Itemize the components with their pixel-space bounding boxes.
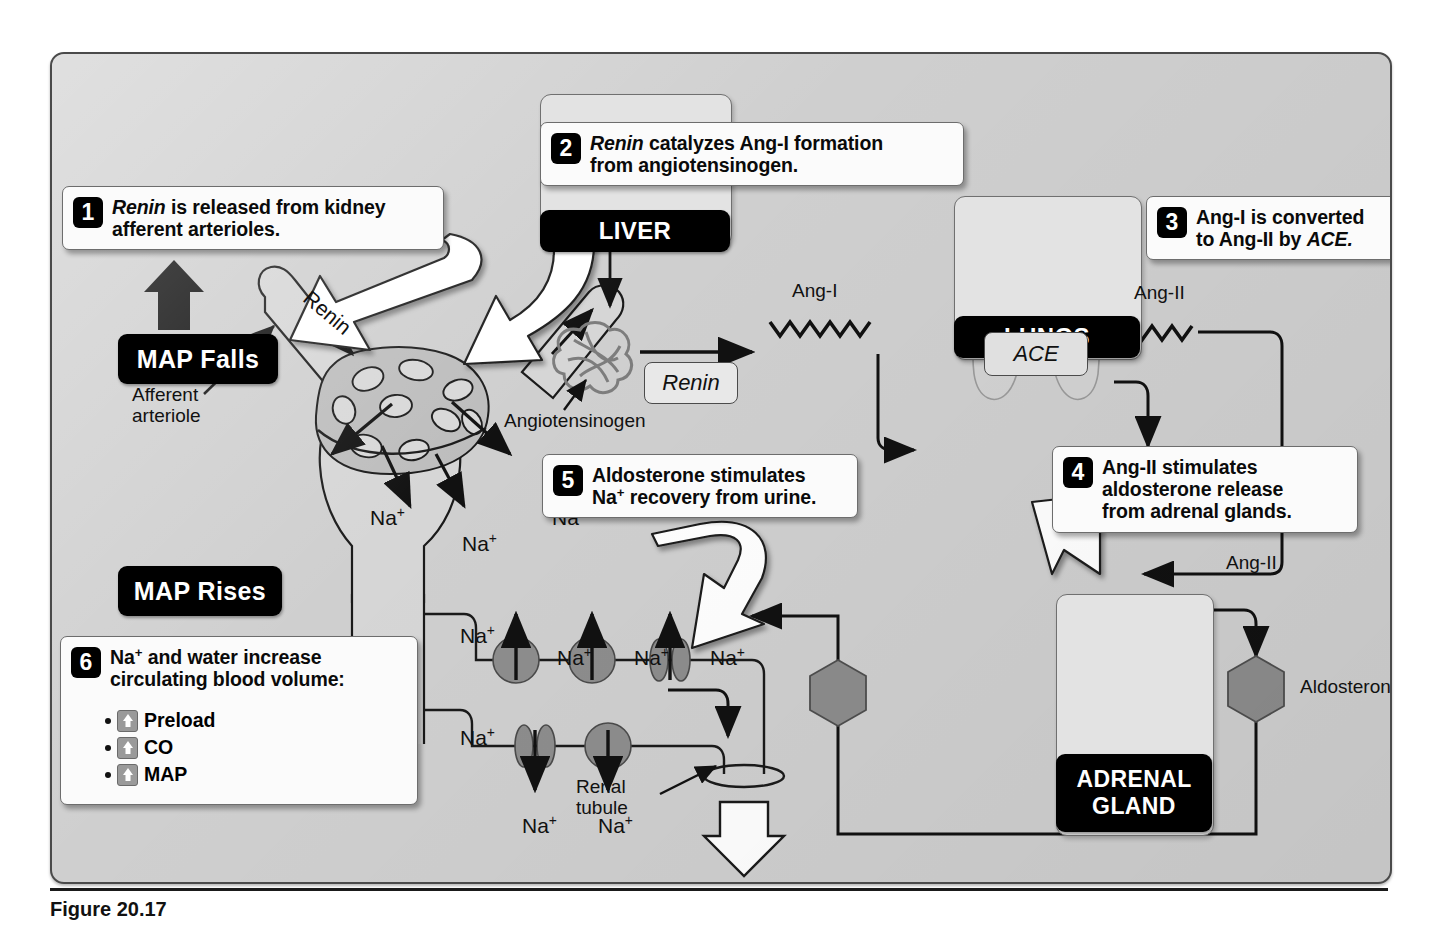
callout-5-number: 5 (553, 465, 583, 496)
na-basal-1: Na+ (522, 814, 557, 838)
callout-1-text: Renin is released from kidney afferent a… (112, 196, 385, 240)
na-tubule-lower: Na+ (460, 726, 495, 750)
sodium-charge-sup: + (584, 644, 592, 660)
afferent-arteriole-line1: Afferent (132, 384, 201, 405)
bullet-co-label: CO (144, 736, 173, 759)
callout-4-number: 4 (1063, 457, 1093, 488)
callout-3-ace: ACE. (1307, 228, 1353, 250)
callout-4-text: Ang-II stimulates aldosterone release fr… (1102, 456, 1292, 523)
callout-3-number: 3 (1157, 207, 1187, 238)
callout-1: 1 Renin is released from kidney afferent… (62, 186, 444, 250)
ang-i-label: Ang-I (792, 280, 837, 302)
adrenal-label-line2: GLAND (1092, 793, 1176, 820)
sodium-charge-sup: + (737, 644, 745, 660)
callout-2-number: 2 (551, 133, 581, 164)
sodium-text: Na+ (370, 506, 405, 529)
aldosterone-hexagon-right (1228, 656, 1284, 722)
pill-adrenal-gland: ADRENAL GLAND (1056, 754, 1212, 832)
callout-5: 5 Aldosterone stimulates Na+ recovery fr… (542, 454, 858, 518)
callout-1-line2: afferent arterioles. (112, 218, 385, 240)
angiotensinogen-label: Angiotensinogen (504, 410, 646, 432)
pill-liver: LIVER (540, 210, 730, 252)
sodium-text: Na+ (462, 532, 497, 555)
ace-chip-label: ACE (1013, 341, 1058, 367)
callout-4-line1: Ang-II stimulates (1102, 456, 1292, 478)
sodium-text: Na+ (557, 646, 592, 669)
callout-2-text: Renin catalyzes Ang-I formation from ang… (590, 132, 883, 176)
ang-ii-label-top: Ang-II (1134, 282, 1185, 304)
angiotensinogen-text: Angiotensinogen (504, 410, 646, 431)
aldosterone-text: Aldosterone (1300, 676, 1392, 697)
callout-5-text: Aldosterone stimulates Na+ recovery from… (592, 464, 816, 508)
sodium-charge-sup: + (397, 504, 405, 520)
na-apical-1: Na+ (557, 646, 592, 670)
bullet-dot-icon (105, 718, 111, 724)
sodium-text: Na+ (460, 624, 495, 647)
liver-label: LIVER (599, 217, 672, 245)
callout-3-line2: to Ang-II by ACE. (1196, 228, 1364, 250)
renal-tubule-label: Renal tubule (576, 776, 628, 819)
na-apical-2: Na+ (634, 646, 669, 670)
na-tubule-upper: Na+ (460, 624, 495, 648)
bullet-dot-icon (105, 745, 111, 751)
callout-1-line1-italic: Renin (112, 196, 166, 218)
sodium-text: Na+ (634, 646, 669, 669)
urine-text: URINE (698, 880, 766, 884)
aldosterone-label: Aldosterone (1300, 676, 1392, 698)
up-arrow-icon (117, 737, 138, 759)
ang-ii-adrenal-text: Ang-II (1226, 552, 1277, 573)
callout-6-line1: Na+ and water increase (110, 646, 345, 668)
afferent-arteriole-label: Afferent arteriole (132, 384, 201, 427)
sodium-text: Na+ (460, 726, 495, 749)
bullet-map-label: MAP (144, 763, 187, 786)
callout-6: 6 Na+ and water increase circulating blo… (60, 636, 418, 805)
na-basal-2: Na+ (598, 814, 633, 838)
callout-1-number: 1 (73, 197, 103, 228)
bullet-preload: Preload (105, 709, 216, 732)
callout-6-na-sup: + (135, 645, 143, 660)
up-arrow-icon (117, 764, 138, 786)
callout-6-line2: circulating blood volume: (110, 668, 345, 690)
sodium-charge-sup: + (549, 812, 557, 828)
up-arrow-icon (117, 710, 138, 732)
callout-4-line2: aldosterone release (1102, 478, 1292, 500)
renin-chip-label: Renin (662, 370, 719, 396)
renin-chip: Renin (644, 362, 738, 404)
diagram-panel: MAP Falls MAP Rises LIVER LUNGS ADRENAL … (50, 52, 1392, 884)
callout-2-line2: from angiotensinogen. (590, 154, 883, 176)
sodium-text: Na+ (598, 814, 633, 837)
figure-root: MAP Falls MAP Rises LIVER LUNGS ADRENAL … (0, 0, 1433, 938)
callout-6-bullet-list: Preload CO MAP (71, 705, 216, 790)
renal-tubule-line1: Renal (576, 776, 628, 797)
ace-chip: ACE (984, 332, 1088, 376)
ang-i-text: Ang-I (792, 280, 837, 301)
sodium-charge-sup: + (661, 644, 669, 660)
na-glomerulus-left: Na+ (370, 506, 405, 530)
adrenal-label-line1: ADRENAL (1076, 766, 1191, 793)
callout-1-line1-rest: is released from kidney (166, 196, 386, 218)
callout-4-line3: from adrenal glands. (1102, 500, 1292, 522)
sodium-charge-sup: + (487, 622, 495, 638)
sodium-text: Na+ (710, 646, 745, 669)
sodium-text: Na+ (522, 814, 557, 837)
na-apical-3: Na+ (710, 646, 745, 670)
bullet-co: CO (105, 736, 216, 759)
map-falls-label: MAP Falls (137, 345, 260, 374)
sodium-charge-sup: + (489, 530, 497, 546)
bullet-dot-icon (105, 772, 111, 778)
afferent-arteriole-line2: arteriole (132, 405, 201, 426)
callout-3-text: Ang-I is converted to Ang-II by ACE. (1196, 206, 1364, 250)
callout-5-line2: Na+ recovery from urine. (592, 486, 816, 508)
na-glomerulus-mid: Na+ (462, 532, 497, 556)
ang-ii-label-adrenal: Ang-II (1226, 552, 1277, 574)
callout-5-na-sup: + (617, 485, 625, 500)
callout-6-number: 6 (71, 647, 101, 678)
callout-6-text: Na+ and water increase circulating blood… (110, 646, 345, 690)
sodium-charge-sup: + (625, 812, 633, 828)
caption-rule (50, 888, 1388, 891)
aldosterone-hexagon-left (810, 660, 866, 726)
bullet-map: MAP (105, 763, 216, 786)
callout-2: 2 Renin catalyzes Ang-I formation from a… (540, 122, 964, 186)
map-rises-label: MAP Rises (134, 577, 266, 606)
urine-label: URINE (698, 880, 766, 884)
